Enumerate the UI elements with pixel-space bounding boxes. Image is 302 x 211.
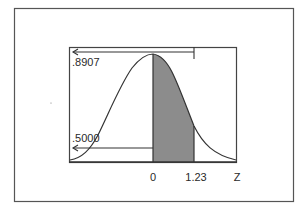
- axis-label-z: Z: [234, 171, 241, 183]
- lower-cumulative-label: .5000: [72, 132, 100, 144]
- upper-cumulative-label: .8907: [72, 56, 100, 68]
- normal-distribution-diagram: .8907 .5000 0 1.23 Z: [0, 0, 302, 211]
- speck: [50, 102, 51, 103]
- tick-label-0: 0: [150, 171, 156, 183]
- tick-label-123: 1.23: [185, 171, 206, 183]
